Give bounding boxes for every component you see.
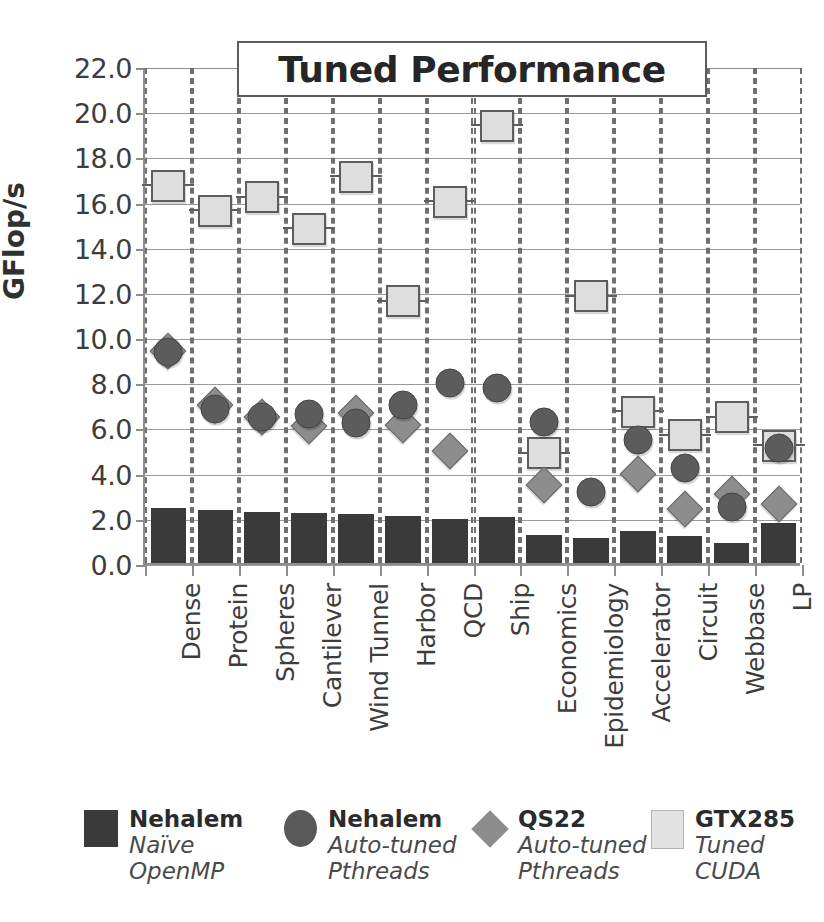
x-tick-mark bbox=[708, 565, 710, 576]
bar bbox=[151, 508, 187, 563]
y-tick-label: 14.0 bbox=[0, 233, 132, 264]
category-divider-dashed bbox=[192, 68, 194, 563]
y-tick-label: 22.0 bbox=[0, 53, 132, 84]
category-divider-dashed bbox=[755, 68, 757, 563]
data-point-gtx285 bbox=[292, 213, 326, 245]
y-tick-mark bbox=[136, 429, 145, 431]
legend-series-name: Nehalem bbox=[129, 806, 243, 832]
bar bbox=[761, 523, 797, 563]
data-point-gtx285 bbox=[668, 419, 702, 451]
data-point-nehalem-autotuned bbox=[342, 408, 371, 437]
y-tick-mark bbox=[136, 113, 145, 115]
bar bbox=[432, 519, 468, 563]
x-tick-label: Dense bbox=[177, 583, 206, 660]
legend-text: NehalemAuto-tunedPthreads bbox=[328, 806, 457, 884]
y-tick-label: 10.0 bbox=[0, 324, 132, 355]
y-tick-mark bbox=[136, 384, 145, 386]
legend-text: GTX285TunedCUDA bbox=[695, 806, 795, 884]
legend-item[interactable]: GTX285TunedCUDA bbox=[651, 806, 795, 884]
bar bbox=[338, 514, 374, 563]
x-tick-label: Webbase bbox=[741, 583, 770, 695]
legend-text: NehalemNaïveOpenMP bbox=[129, 806, 243, 884]
x-tick-label: Ship bbox=[506, 583, 535, 636]
legend-series-sublabel-line1: Naïve bbox=[129, 832, 243, 858]
legend-item[interactable]: NehalemAuto-tunedPthreads bbox=[284, 806, 457, 884]
chart-category-column bbox=[239, 68, 286, 563]
legend-series-sublabel-line1: Tuned bbox=[695, 832, 795, 858]
y-tick-label: 20.0 bbox=[0, 98, 132, 129]
data-point-nehalem-autotuned bbox=[623, 425, 652, 454]
x-tick-mark bbox=[567, 565, 569, 576]
data-point-gtx285 bbox=[480, 110, 514, 142]
x-tick-label: Accelerator bbox=[647, 583, 676, 723]
y-tick-label: 8.0 bbox=[0, 369, 132, 400]
bar bbox=[714, 543, 750, 563]
data-point-nehalem-autotuned bbox=[389, 390, 418, 419]
chart-category-column bbox=[474, 68, 521, 563]
legend-series-name: QS22 bbox=[518, 806, 647, 832]
x-tick-label: Spheres bbox=[271, 583, 300, 682]
data-point-gtx285 bbox=[198, 195, 232, 227]
plot-area bbox=[143, 68, 800, 565]
chart-category-column bbox=[145, 68, 192, 563]
data-point-gtx285 bbox=[715, 401, 749, 433]
bar bbox=[244, 512, 280, 564]
y-tick-label: 18.0 bbox=[0, 143, 132, 174]
data-point-nehalem-autotuned bbox=[576, 477, 605, 506]
category-divider-dashed bbox=[520, 68, 522, 563]
x-tick-mark bbox=[380, 565, 382, 576]
category-divider-dashed bbox=[333, 68, 335, 563]
bar bbox=[667, 536, 703, 563]
data-point-gtx285 bbox=[339, 161, 373, 193]
y-tick-mark bbox=[136, 339, 145, 341]
x-tick-label: Protein bbox=[224, 583, 253, 669]
data-point-gtx285 bbox=[574, 280, 608, 312]
x-tick-mark bbox=[427, 565, 429, 576]
chart-category-column bbox=[614, 68, 661, 563]
data-point-nehalem-autotuned bbox=[717, 492, 746, 521]
data-point-nehalem-autotuned bbox=[201, 395, 230, 424]
legend-series-sublabel-line1: Auto-tuned bbox=[328, 832, 457, 858]
data-point-gtx285 bbox=[433, 186, 467, 218]
bar bbox=[620, 531, 656, 563]
chart-title: Tuned Performance bbox=[237, 41, 707, 97]
category-divider-dashed bbox=[708, 68, 710, 563]
x-tick-mark bbox=[239, 565, 241, 576]
chart-category-column bbox=[192, 68, 239, 563]
legend-item[interactable]: NehalemNaïveOpenMP bbox=[84, 806, 243, 884]
x-tick-mark bbox=[661, 565, 663, 576]
x-tick-mark bbox=[192, 565, 194, 576]
chart-category-column bbox=[567, 68, 614, 563]
chart-category-column bbox=[427, 68, 474, 563]
data-point-nehalem-autotuned bbox=[670, 454, 699, 483]
category-divider-dashed bbox=[614, 68, 616, 563]
x-tick-mark bbox=[520, 565, 522, 576]
data-point-gtx285 bbox=[245, 181, 279, 213]
y-tick-label: 16.0 bbox=[0, 188, 132, 219]
legend-item[interactable]: QS22Auto-tunedPthreads bbox=[473, 806, 647, 884]
category-divider-dashed bbox=[567, 68, 569, 563]
data-point-nehalem-autotuned bbox=[248, 403, 277, 432]
data-point-gtx285 bbox=[621, 396, 655, 428]
x-tick-mark bbox=[802, 565, 804, 576]
chart-category-column bbox=[286, 68, 333, 563]
y-tick-mark bbox=[136, 68, 145, 70]
category-divider-dashed bbox=[661, 68, 663, 563]
y-tick-mark bbox=[136, 475, 145, 477]
y-tick-label: 0.0 bbox=[0, 550, 132, 581]
data-point-qs22 bbox=[619, 455, 656, 492]
bar bbox=[573, 538, 609, 563]
legend-series-sublabel-line1: Auto-tuned bbox=[518, 832, 647, 858]
y-tick-label: 2.0 bbox=[0, 504, 132, 535]
y-tick-mark bbox=[136, 204, 145, 206]
chart-category-column bbox=[755, 68, 802, 563]
legend-swatch-square-light-icon bbox=[651, 810, 684, 849]
legend-series-sublabel-line2: CUDA bbox=[695, 858, 795, 884]
category-divider-dashed bbox=[800, 68, 802, 563]
data-point-nehalem-autotuned bbox=[295, 399, 324, 428]
chart-root: Tuned Performance GFlop/s 22.020.018.016… bbox=[0, 0, 824, 922]
legend-series-sublabel-line2: OpenMP bbox=[129, 858, 243, 884]
data-point-nehalem-autotuned bbox=[154, 337, 183, 366]
bar bbox=[385, 516, 421, 563]
gridline bbox=[145, 565, 800, 566]
